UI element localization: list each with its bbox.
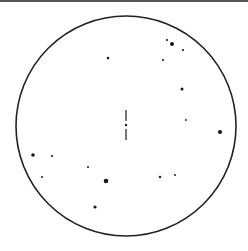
star-dot [31, 153, 35, 157]
star-dot [51, 155, 53, 157]
star-dot [174, 174, 176, 176]
star-field-diagram [0, 0, 248, 251]
star-dot [170, 42, 174, 46]
center-marker [125, 110, 127, 140]
star-dot [182, 49, 184, 51]
star-dot [166, 39, 168, 41]
star-dot [159, 176, 161, 178]
star-dot [104, 179, 109, 184]
star-dot [218, 130, 222, 134]
star-dot [93, 205, 96, 208]
star-dot [87, 166, 89, 168]
star-dot [181, 88, 184, 91]
star-dot [107, 57, 110, 60]
star-dot [185, 119, 187, 121]
star-dot [41, 176, 43, 178]
star-dot [162, 59, 164, 61]
center-marker-dot [125, 124, 127, 126]
star-dots [31, 39, 222, 209]
